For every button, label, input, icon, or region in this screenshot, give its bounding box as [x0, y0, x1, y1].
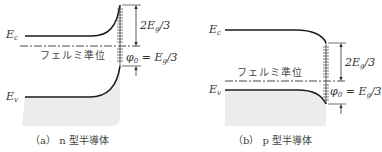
caption-b: （b） p 型半導体 [233, 136, 312, 146]
fermi-label-b: フェルミ準位 [237, 68, 303, 78]
ev-label-b: Ev [209, 84, 221, 97]
gap-upper-label-b: 2Eg/3 [345, 57, 375, 70]
valence-shade-a [22, 66, 120, 126]
panel-a-diagram [20, 5, 142, 126]
conduction-band-edge-a [25, 5, 120, 36]
ev-label-a: Ev [6, 91, 18, 104]
gap-upper-label-a: 2Eg/3 [140, 20, 170, 33]
panel-b-diagram [225, 30, 346, 126]
phi-label-a: φ0 = Eg/3 [126, 52, 178, 65]
ec-label-a: Ec [6, 29, 18, 42]
ec-label-b: Ec [209, 24, 221, 37]
caption-a: （a） n 型半導体 [30, 136, 109, 146]
fermi-label-a: フェルミ準位 [40, 51, 106, 61]
phi-label-b: φ0 = Eg/3 [330, 86, 382, 99]
conduction-band-edge-b [225, 30, 326, 43]
valence-shade-b [225, 91, 326, 126]
valence-band-edge-a [25, 66, 120, 97]
